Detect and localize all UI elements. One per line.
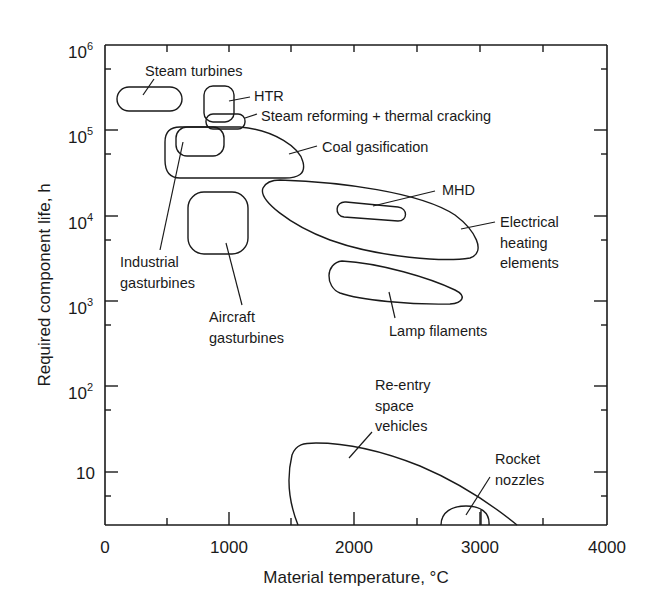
y-tick-label: 10	[76, 464, 95, 483]
label-aircraft-1: Aircraft	[209, 309, 255, 325]
label-electrical-heating-1: Electrical	[500, 214, 559, 230]
y-tick-label: 105	[68, 125, 93, 147]
region-htr	[204, 86, 234, 122]
label-rocket-2: nozzles	[495, 472, 544, 488]
y-axis-title: Required component life, h	[35, 183, 54, 386]
regions	[117, 86, 517, 525]
label-industrial-2: gasturbines	[120, 275, 195, 291]
region-reentry	[289, 443, 517, 525]
y-ticks	[105, 69, 118, 496]
label-steam-turbines: Steam turbines	[145, 63, 243, 79]
region-coal-gasification	[165, 127, 304, 178]
leader-lines	[143, 79, 495, 515]
label-mhd: MHD	[442, 182, 475, 198]
label-electrical-heating-2: heating	[500, 235, 548, 251]
x-tick-label: 4000	[588, 538, 626, 557]
x-tick-label: 0	[100, 538, 109, 557]
label-rocket-1: Rocket	[495, 451, 540, 467]
region-steam-turbines	[117, 87, 182, 111]
x-axis-title: Material temperature, °C	[263, 568, 448, 587]
y-tick-label: 106	[68, 40, 93, 62]
label-lamp-filaments: Lamp filaments	[389, 323, 487, 339]
label-industrial-1: Industrial	[120, 254, 179, 270]
x-tick-label: 2000	[335, 538, 373, 557]
x-ticks-top	[167, 45, 543, 52]
y-tick-label: 104	[68, 211, 93, 233]
label-reentry-1: Re-entry	[375, 377, 431, 393]
label-reentry-2: space	[375, 398, 414, 414]
y-tick-labels: 106 105 104 103 102 10	[68, 40, 95, 483]
label-electrical-heating-3: elements	[500, 255, 559, 271]
label-coal-gasification: Coal gasification	[322, 139, 428, 155]
y-ticks-right	[594, 69, 607, 496]
x-tick-label: 1000	[210, 538, 248, 557]
region-rocket-nozzles	[441, 506, 489, 525]
x-tick-label: 3000	[461, 538, 499, 557]
region-industrial-gasturbines	[176, 127, 224, 156]
label-reentry-3: vehicles	[375, 418, 427, 434]
chart: 0 1000 2000 3000 4000 106 105 104 103 10…	[0, 0, 657, 609]
y-tick-label: 102	[68, 381, 93, 403]
y-tick-label: 103	[68, 296, 93, 318]
region-aircraft-gasturbines	[188, 192, 248, 254]
region-mhd	[337, 202, 405, 221]
region-lamp-filaments	[329, 261, 462, 304]
x-tick-labels: 0 1000 2000 3000 4000	[100, 538, 626, 557]
label-steam-reforming: Steam reforming + thermal cracking	[261, 108, 491, 124]
label-aircraft-2: gasturbines	[209, 330, 284, 346]
label-htr: HTR	[254, 88, 284, 104]
